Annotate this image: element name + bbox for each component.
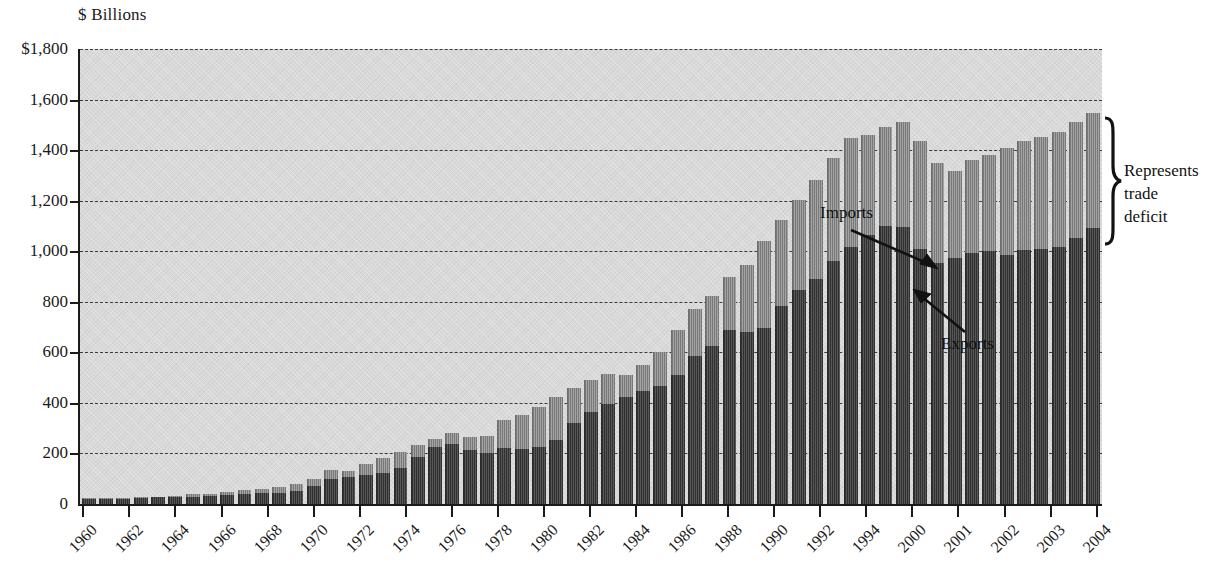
y-axis-tick-label: 600 bbox=[0, 342, 68, 362]
bar-exports bbox=[307, 486, 321, 504]
y-axis-tick-label: 1,400 bbox=[0, 140, 68, 160]
bar-exports bbox=[982, 251, 996, 504]
bar-exports bbox=[705, 346, 719, 504]
bar-exports bbox=[740, 332, 754, 504]
x-axis-tick-label: 1976 bbox=[434, 521, 469, 556]
y-axis-tick bbox=[70, 150, 78, 152]
bar-exports bbox=[134, 498, 148, 504]
bar-exports bbox=[411, 457, 425, 504]
x-axis-tick bbox=[543, 506, 545, 517]
y-axis-title: $ Billions bbox=[78, 5, 147, 25]
bar-exports bbox=[463, 450, 477, 504]
bar-exports bbox=[653, 386, 667, 504]
x-axis-tick bbox=[451, 506, 453, 517]
bar-exports bbox=[844, 247, 858, 504]
y-axis-tick bbox=[70, 352, 78, 354]
y-axis-tick-label: 1,200 bbox=[0, 191, 68, 211]
y-axis-tick-label: 0 bbox=[0, 494, 68, 514]
x-axis-tick bbox=[405, 506, 407, 517]
bar-exports bbox=[567, 423, 581, 504]
x-axis-tick-label: 1984 bbox=[618, 521, 653, 556]
bar-exports bbox=[272, 493, 286, 504]
bar-exports bbox=[99, 499, 113, 504]
chart-root: $ Billions $1,8001,6001,4001,2001,000800… bbox=[0, 0, 1227, 570]
annotation-imports: Imports bbox=[820, 203, 873, 223]
y-axis-tick bbox=[70, 251, 78, 253]
bar-exports bbox=[255, 493, 269, 504]
bar-exports bbox=[827, 261, 841, 504]
trade-deficit-line-2: trade bbox=[1124, 182, 1199, 205]
annotation-exports: Exports bbox=[941, 334, 994, 354]
x-axis-tick bbox=[359, 506, 361, 517]
plot-inner bbox=[80, 49, 1102, 504]
x-axis-tick-label: 1970 bbox=[296, 521, 331, 556]
x-axis-tick-label: 1994 bbox=[849, 521, 884, 556]
y-axis-tick-label: 800 bbox=[0, 292, 68, 312]
x-axis-tick-label: 1974 bbox=[388, 521, 423, 556]
bar-exports bbox=[792, 290, 806, 504]
bar-exports bbox=[913, 249, 927, 504]
y-axis-tick-label: 200 bbox=[0, 443, 68, 463]
bar-exports bbox=[394, 468, 408, 504]
bar-exports bbox=[116, 499, 130, 504]
y-axis-tick-label: 400 bbox=[0, 393, 68, 413]
bar-exports bbox=[688, 356, 702, 504]
bar-exports bbox=[168, 497, 182, 504]
bar-exports bbox=[931, 263, 945, 504]
x-axis-tick bbox=[82, 506, 84, 517]
x-axis-tick bbox=[773, 506, 775, 517]
bar-exports bbox=[757, 328, 771, 504]
x-axis-tick-label: 1978 bbox=[480, 521, 515, 556]
bar-exports bbox=[82, 499, 96, 504]
bar-exports bbox=[186, 497, 200, 504]
x-axis-tick-label: 1988 bbox=[711, 521, 746, 556]
bar-exports bbox=[480, 453, 494, 504]
x-axis-tick bbox=[1050, 506, 1052, 517]
bar-exports bbox=[636, 391, 650, 504]
bar-exports bbox=[1069, 238, 1083, 504]
bar-exports bbox=[532, 447, 546, 504]
gridline bbox=[80, 150, 1102, 151]
bar-exports bbox=[861, 235, 875, 504]
x-axis-tick bbox=[267, 506, 269, 517]
bar-exports bbox=[723, 330, 737, 504]
x-axis-tick-label: 1962 bbox=[112, 521, 147, 556]
x-axis-tick-label: 2001 bbox=[941, 521, 976, 556]
annotation-trade-deficit: Represents trade deficit bbox=[1124, 159, 1199, 228]
x-axis-tick-label: 1980 bbox=[526, 521, 561, 556]
x-axis-tick bbox=[635, 506, 637, 517]
x-axis-tick-label: 1982 bbox=[572, 521, 607, 556]
x-axis-tick bbox=[497, 506, 499, 517]
bar-exports bbox=[948, 258, 962, 504]
x-axis-tick bbox=[957, 506, 959, 517]
x-axis-tick bbox=[174, 506, 176, 517]
bar-exports bbox=[965, 253, 979, 504]
x-axis-tick bbox=[128, 506, 130, 517]
x-axis-tick-label: 1990 bbox=[757, 521, 792, 556]
bar-exports bbox=[324, 479, 338, 504]
x-axis-tick-label: 1960 bbox=[66, 521, 101, 556]
bar-exports bbox=[1034, 249, 1048, 504]
y-axis-tick-label: 1,600 bbox=[0, 90, 68, 110]
bar-exports bbox=[1000, 255, 1014, 504]
bar-exports bbox=[515, 449, 529, 504]
x-axis-tick-label: 2004 bbox=[1079, 521, 1114, 556]
x-axis-tick bbox=[819, 506, 821, 517]
bar-exports bbox=[584, 412, 598, 504]
bar-exports bbox=[896, 227, 910, 504]
bar-exports bbox=[342, 477, 356, 504]
gridline bbox=[80, 49, 1102, 50]
y-axis-tick-label: 1,000 bbox=[0, 241, 68, 261]
trade-deficit-line-1: Represents bbox=[1124, 159, 1199, 182]
y-axis-tick bbox=[70, 403, 78, 405]
trade-deficit-line-3: deficit bbox=[1124, 205, 1199, 228]
y-axis-tick bbox=[70, 100, 78, 102]
x-axis-tick bbox=[1096, 506, 1098, 517]
x-axis-tick bbox=[865, 506, 867, 517]
x-axis-tick bbox=[1004, 506, 1006, 517]
x-axis-tick-label: 1992 bbox=[803, 521, 838, 556]
bar-exports bbox=[809, 279, 823, 504]
x-axis-tick-label: 2000 bbox=[895, 521, 930, 556]
bar-exports bbox=[497, 448, 511, 504]
bar-exports bbox=[238, 494, 252, 504]
